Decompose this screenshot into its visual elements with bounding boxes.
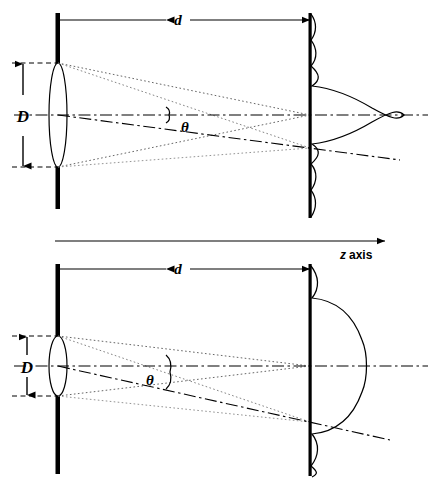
z-axis-word: axis [349,248,373,262]
bottom-panel: d D θ [12,261,428,477]
ray-bottom-edge-to-offaxis [58,396,310,422]
airy-diffraction-profile-bottom [311,266,367,477]
z-axis: zaxis [55,241,385,262]
z-axis-symbol: z [339,248,346,262]
top-panel: d D θ [12,12,428,218]
observation-screen [309,264,312,476]
figure-canvas: d D θ zaxis [0,0,433,478]
aperture-label-top: D [16,107,29,126]
ray-top-edge-to-offaxis [58,63,310,148]
diffraction-figure: d D θ zaxis [0,0,433,478]
distance-dimension-top: d [58,12,310,28]
z-axis-label: zaxis [339,248,373,262]
ray-bottom-edge-to-offaxis [58,148,310,167]
angle-label-bottom: θ [146,372,154,388]
ray-bottom-edge-to-axis [58,366,310,396]
ray-top-edge-to-axis [58,336,310,366]
chief-ray-offaxis-bottom [58,366,390,440]
distance-label-top: d [174,12,182,28]
angle-bracket-bottom [166,355,171,389]
aperture-label-bottom: D [20,358,33,377]
ray-top-edge-to-offaxis [58,336,310,422]
ray-top-edge-to-axis [58,63,310,115]
distance-label-bottom: d [174,261,182,277]
observation-screen [309,13,312,218]
distance-dimension-bottom: d [58,261,310,277]
angle-label-top: θ [181,119,189,135]
chief-ray-offaxis-top [58,115,400,160]
